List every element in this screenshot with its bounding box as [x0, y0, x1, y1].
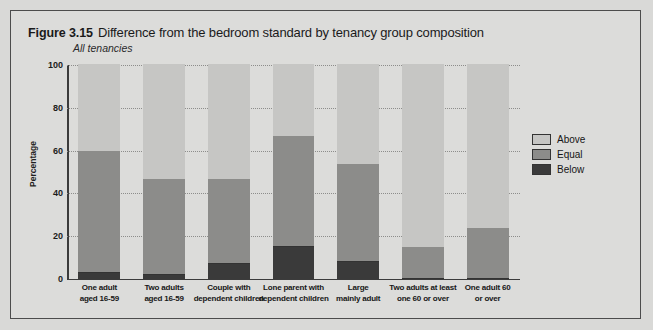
bar-segment-equal: [78, 150, 120, 273]
bar-segment-above: [402, 64, 444, 247]
y-axis-tick: 60: [35, 146, 63, 156]
stacked-bar[interactable]: [273, 65, 314, 279]
legend-swatch-icon: [532, 149, 551, 160]
stacked-bar[interactable]: [208, 65, 249, 279]
legend-item[interactable]: Equal: [532, 149, 585, 160]
bar-segment-above: [337, 64, 379, 164]
legend-item[interactable]: Above: [532, 134, 585, 145]
bar-segment-above: [467, 64, 509, 228]
legend-swatch-icon: [532, 164, 551, 175]
y-axis-tick-labels: 020406080100: [35, 65, 63, 279]
bar-segment-below: [208, 263, 250, 279]
plot-area: [67, 65, 520, 279]
bar-segment-above: [78, 64, 120, 151]
y-axis-tick: 100: [35, 60, 63, 70]
legend-item[interactable]: Below: [532, 164, 585, 175]
bar-segment-equal: [143, 177, 185, 275]
stacked-bar[interactable]: [79, 65, 120, 279]
figure-frame: Figure 3.15Difference from the bedroom s…: [10, 10, 641, 319]
bar-segment-below: [273, 246, 315, 280]
stacked-bar[interactable]: [144, 65, 185, 279]
bar-segment-equal: [337, 162, 379, 262]
bar-segment-equal: [402, 246, 444, 280]
bar-segment-above: [143, 64, 185, 179]
bar-segment-above: [208, 64, 250, 179]
bar-segment-above: [273, 64, 315, 136]
bar-segment-equal: [208, 177, 250, 264]
x-axis-tick-line: One adult 60: [448, 283, 527, 294]
y-axis-tick: 40: [35, 188, 63, 198]
legend-label: Above: [557, 134, 585, 145]
bar-segment-equal: [273, 135, 315, 248]
bar-segment-equal: [467, 227, 509, 280]
bars-layer: [67, 65, 520, 279]
stacked-bar[interactable]: [402, 65, 443, 279]
stacked-bar[interactable]: [467, 65, 508, 279]
legend-swatch-icon: [532, 134, 551, 145]
x-axis-tick-line: or over: [448, 294, 527, 305]
bar-segment-below: [337, 261, 379, 280]
legend-label: Below: [557, 164, 584, 175]
legend: AboveEqualBelow: [532, 134, 585, 179]
x-axis-tick: One adult 60or over: [448, 283, 527, 304]
y-axis-tick: 20: [35, 231, 63, 241]
y-axis-tick: 0: [35, 274, 63, 284]
figure-screenshot: Figure 3.15Difference from the bedroom s…: [0, 0, 653, 330]
x-axis-tick-labels: One adultaged 16-59Two adultsaged 16-59C…: [67, 283, 520, 313]
legend-label: Equal: [557, 149, 583, 160]
y-axis-tick: 80: [35, 103, 63, 113]
stacked-bar[interactable]: [338, 65, 379, 279]
